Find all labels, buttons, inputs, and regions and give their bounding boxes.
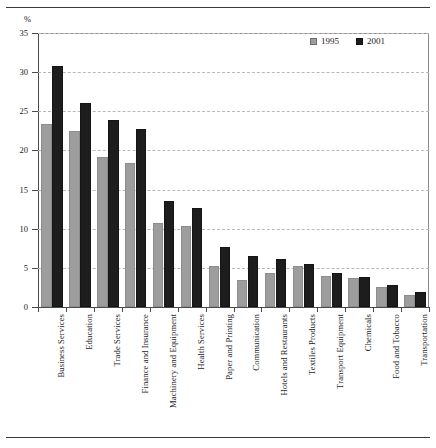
bar-group [293,33,314,307]
y-axis-tick-label: 35 [20,28,29,38]
bar [387,285,397,307]
bars-group [38,33,429,307]
bar-group [97,33,118,307]
bar [348,278,358,307]
bar [181,226,191,307]
bar-group [153,33,174,307]
x-axis-tick [345,307,346,312]
bar [209,266,219,307]
bar-group [237,33,258,307]
y-axis-unit-label: % [24,14,31,24]
x-axis-category-label: Communication [251,314,261,371]
bar-group [404,33,425,307]
x-axis-tick [150,307,151,312]
bar [80,103,90,307]
x-axis-tick [66,307,67,312]
x-axis-tick [178,307,179,312]
y-axis-tick-label: 20 [20,145,29,155]
bar [265,273,275,307]
x-axis-tick [234,307,235,312]
x-axis-tick [429,307,430,312]
bar [192,208,202,307]
bar-group [376,33,397,307]
x-axis-tick [289,307,290,312]
bottom-horizontal-rule [6,437,430,438]
y-axis-tick-label: 15 [20,185,29,195]
y-axis-tick-label: 30 [20,67,29,77]
y-axis-tick-label: 0 [24,302,28,312]
bar-group [69,33,90,307]
bar [415,292,425,307]
x-axis-category-label: Trade Services [112,314,122,366]
bar [304,264,314,307]
bar [41,124,51,307]
bar [52,66,62,307]
x-axis-category-label: Machinery and Equipment [168,314,178,408]
x-axis-category-label: Business Services [56,314,66,378]
x-axis-category-label: Food and Tobacco [391,314,401,379]
x-axis-category-label: Textiles Products [307,314,317,375]
x-axis-category-label: Hotels and Restaurants [279,314,289,395]
bar [404,295,414,307]
bar-group [181,33,202,307]
bar [293,266,303,307]
x-axis-category-label: Chemicals [363,314,373,351]
x-axis-tick [261,307,262,312]
bar [359,277,369,307]
bar [248,256,258,307]
x-axis-category-label: Education [84,314,94,350]
y-axis-tick-label: 25 [20,106,29,116]
top-horizontal-rule [6,7,430,8]
x-axis-tick [373,307,374,312]
bar-group [321,33,342,307]
bar [97,157,107,307]
y-axis-tick-label: 5 [24,263,28,273]
bar [153,223,163,307]
x-axis-category-label: Transport Equipment [335,314,345,389]
bar-group [348,33,369,307]
bar [125,163,135,307]
bar [164,201,174,307]
x-axis-tick [317,307,318,312]
bar [108,120,118,307]
x-axis-tick [94,307,95,312]
x-axis-tick [401,307,402,312]
bar-group [209,33,230,307]
bar [332,273,342,307]
bar [69,131,79,307]
x-axis-category-label: Transportation [419,314,429,366]
bar-group [125,33,146,307]
x-axis-tick [38,307,39,312]
bar [237,280,247,307]
y-axis-tick-label: 10 [20,224,29,234]
bar [276,259,286,307]
x-axis-category-label: Finance and Insurance [140,314,150,393]
bar-group [265,33,286,307]
bar [376,287,386,307]
x-axis-category-label: Health Services [196,314,206,370]
x-axis-tick [122,307,123,312]
bar [321,276,331,307]
bar-group [41,33,62,307]
x-axis-tick [206,307,207,312]
x-axis-category-label: Paper and Printing [224,314,234,380]
bar [220,247,230,307]
bar [136,129,146,307]
bar-chart-figure: % 1995 2001 05101520253035 Business Serv… [0,0,436,448]
